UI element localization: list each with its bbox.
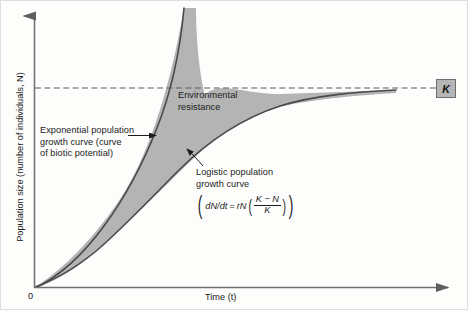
formula-lhs: dN/dt: [205, 201, 227, 211]
formula-inner-open-paren: (: [249, 196, 252, 215]
formula-open-paren: (: [198, 193, 203, 218]
carrying-capacity-badge: K: [436, 79, 456, 98]
formula-close-paren: ): [289, 193, 294, 218]
exponential-curve-label: Exponential population growth curve (cur…: [40, 125, 134, 160]
formula-fraction: K − N K: [254, 195, 281, 215]
population-growth-figure: Population size (number of individuals, …: [0, 0, 469, 311]
logistic-curve-label: Logistic population growth curve: [196, 167, 273, 190]
environmental-resistance-label: Environmental resistance: [178, 90, 237, 113]
logistic-growth-formula: ( dN/dt = rN ( K − N K ) ): [196, 193, 296, 218]
formula-numerator: K − N: [254, 195, 281, 205]
formula-inner-close-paren: ): [282, 196, 285, 215]
origin-label: 0: [28, 291, 33, 301]
x-axis-title: Time (t): [205, 292, 236, 302]
formula-equals: =: [229, 201, 234, 211]
y-axis-title: Population size (number of individuals, …: [15, 42, 25, 272]
formula-denominator: K: [262, 206, 272, 216]
formula-rate-term: rN: [237, 201, 247, 211]
